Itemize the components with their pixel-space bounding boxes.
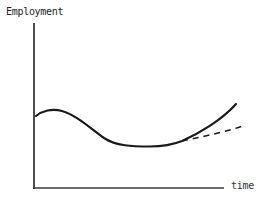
x-axis-label: time <box>231 180 254 191</box>
actual-employment-line <box>36 104 236 147</box>
dashed-projection-line <box>182 126 243 141</box>
employment-chart: Employment time <box>0 0 269 199</box>
chart-plot <box>0 0 269 199</box>
